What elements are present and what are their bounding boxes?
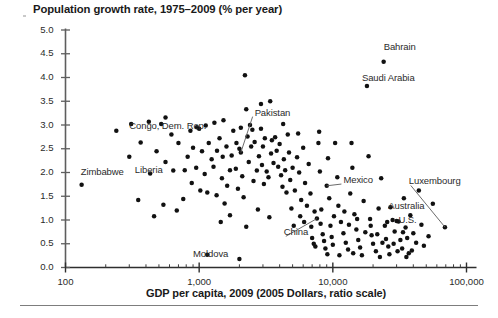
- data-point: [386, 244, 391, 249]
- data-point: [337, 253, 342, 258]
- data-point: [410, 248, 415, 253]
- y-tick-label: 0.5: [28, 237, 54, 248]
- point-label: Luxembourg: [409, 175, 461, 186]
- data-point: [369, 233, 374, 238]
- data-point: [344, 241, 349, 246]
- data-point: [181, 197, 186, 202]
- data-point: [356, 238, 361, 243]
- point-label: Australia: [388, 200, 424, 211]
- data-point: [215, 148, 220, 153]
- data-point: [383, 223, 388, 228]
- data-point: [190, 181, 195, 186]
- data-point: [154, 149, 159, 154]
- data-point: [211, 165, 216, 170]
- data-point: [229, 153, 234, 158]
- data-point: [175, 208, 180, 213]
- data-point: [361, 199, 366, 204]
- y-tick-label: 5.0: [28, 24, 54, 35]
- data-point: [339, 220, 344, 225]
- data-point: [368, 223, 373, 228]
- data-point: [317, 129, 322, 134]
- data-point: [234, 166, 239, 171]
- data-point: [342, 209, 347, 214]
- point-label: Saudi Arabia: [362, 72, 415, 83]
- data-point: [365, 84, 370, 89]
- data-point: [426, 234, 431, 239]
- data-point: [398, 238, 403, 243]
- point-label: Pakistan: [255, 107, 291, 118]
- data-point: [255, 168, 260, 173]
- data-point: [176, 141, 181, 146]
- data-point: [240, 174, 245, 179]
- y-tick-label: 2.5: [28, 142, 54, 153]
- data-point: [401, 230, 406, 235]
- data-point: [207, 141, 212, 146]
- data-point: [263, 136, 268, 141]
- y-tick-label: 1.5: [28, 190, 54, 201]
- data-point: [322, 239, 327, 244]
- data-point: [279, 173, 284, 178]
- data-point: [390, 218, 395, 223]
- data-point: [417, 188, 422, 193]
- data-point: [198, 188, 203, 193]
- data-point: [161, 203, 166, 208]
- data-point: [328, 223, 333, 228]
- data-point: [419, 223, 424, 228]
- data-point: [349, 141, 354, 146]
- data-point: [384, 237, 389, 242]
- data-point: [257, 154, 262, 159]
- data-point: [335, 175, 340, 180]
- data-point: [400, 246, 405, 251]
- data-point: [269, 151, 274, 156]
- data-point: [312, 209, 317, 214]
- point-label: Zimbabwe: [81, 166, 124, 177]
- data-point: [392, 229, 397, 234]
- data-point: [247, 160, 252, 165]
- data-point: [391, 242, 396, 247]
- data-point: [114, 128, 119, 133]
- scatter-plot: [0, 0, 498, 318]
- data-point: [259, 127, 264, 132]
- x-tick-label: 1,000: [187, 276, 211, 287]
- data-point: [332, 214, 337, 219]
- data-point: [371, 242, 376, 247]
- data-point: [290, 166, 295, 171]
- data-point: [191, 146, 196, 151]
- y-tick-label: 3.5: [28, 95, 54, 106]
- annotation-leader-line: [327, 184, 342, 186]
- y-tick-label: 2.0: [28, 166, 54, 177]
- data-point: [274, 148, 279, 153]
- point-label: Congo, Dem. Rep.: [129, 120, 206, 131]
- x-tick-label: 100,000: [449, 276, 484, 287]
- data-point: [403, 225, 408, 230]
- data-point: [251, 179, 256, 184]
- data-point: [306, 162, 311, 167]
- data-point: [305, 204, 310, 209]
- data-point: [202, 172, 207, 177]
- data-point: [241, 195, 246, 200]
- data-point: [336, 204, 341, 209]
- x-tick-label: 100: [57, 276, 73, 287]
- data-point: [326, 156, 331, 161]
- data-point: [325, 252, 330, 257]
- data-point: [228, 168, 233, 173]
- data-point: [225, 184, 230, 189]
- data-point: [431, 202, 436, 207]
- data-point: [220, 155, 225, 160]
- y-tick-label: 0.0: [28, 261, 54, 272]
- y-tick-label: 1.0: [28, 214, 54, 225]
- data-point: [352, 212, 357, 217]
- data-point: [404, 255, 409, 260]
- data-point: [239, 126, 244, 131]
- data-point: [293, 188, 298, 193]
- data-point: [264, 169, 269, 174]
- data-point: [244, 224, 249, 229]
- point-label: Liberia: [135, 164, 163, 175]
- data-point: [222, 201, 227, 206]
- data-point: [250, 128, 255, 133]
- data-point: [236, 186, 241, 191]
- data-point: [284, 190, 289, 195]
- data-point: [268, 99, 273, 104]
- data-point: [228, 213, 233, 218]
- data-point: [309, 224, 314, 229]
